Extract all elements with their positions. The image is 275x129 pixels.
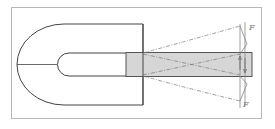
diagram-canvas: F F: [0, 0, 275, 129]
force-label-bottom: F: [242, 100, 249, 109]
magnet-inner-slot: [58, 53, 127, 76]
pole-bar: [126, 53, 252, 77]
force-label-top: F: [248, 23, 255, 32]
